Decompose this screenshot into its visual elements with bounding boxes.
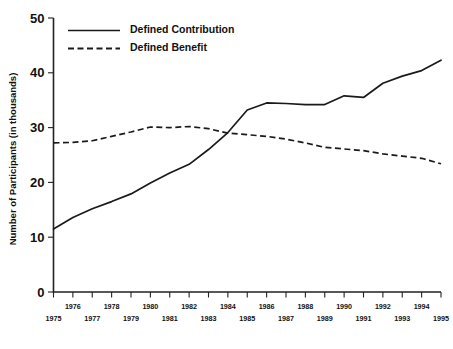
x-tick-label: 1980 bbox=[142, 302, 158, 311]
chart-axes bbox=[54, 18, 442, 292]
x-tick-label: 1993 bbox=[394, 314, 410, 323]
x-tick-label: 1984 bbox=[220, 302, 236, 311]
line-chart-plot: 01020304050 1975197619771978197919801981… bbox=[0, 0, 453, 349]
chart-series bbox=[54, 60, 442, 229]
y-tick-label: 0 bbox=[37, 285, 44, 300]
x-tick-label: 1979 bbox=[123, 314, 139, 323]
x-tick-label: 1990 bbox=[336, 302, 352, 311]
y-tick-label: 40 bbox=[30, 65, 44, 80]
x-tick-label: 1995 bbox=[433, 314, 449, 323]
chart-legend: Defined ContributionDefined Benefit bbox=[68, 23, 234, 53]
y-axis-title: Number of Participants (in thousands) bbox=[7, 73, 18, 246]
x-tick-label: 1983 bbox=[201, 314, 217, 323]
y-axis-ticks: 01020304050 bbox=[30, 11, 53, 300]
x-tick-label: 1994 bbox=[414, 302, 430, 311]
x-tick-label: 1976 bbox=[65, 302, 81, 311]
chart-container: 01020304050 1975197619771978197919801981… bbox=[0, 0, 453, 349]
y-tick-label: 10 bbox=[30, 230, 44, 245]
y-tick-label: 20 bbox=[30, 175, 44, 190]
x-tick-label: 1985 bbox=[239, 314, 255, 323]
legend-label-1: Defined Contribution bbox=[130, 23, 234, 35]
series-line-2 bbox=[54, 127, 442, 164]
y-tick-label: 30 bbox=[30, 120, 44, 135]
x-tick-label: 1982 bbox=[181, 302, 197, 311]
axis-lines bbox=[54, 18, 442, 292]
x-tick-label: 1988 bbox=[297, 302, 313, 311]
x-tick-label: 1987 bbox=[278, 314, 294, 323]
x-tick-label: 1978 bbox=[104, 302, 120, 311]
x-tick-label: 1992 bbox=[375, 302, 391, 311]
x-tick-label: 1975 bbox=[46, 314, 62, 323]
x-tick-label: 1989 bbox=[317, 314, 333, 323]
x-tick-label: 1977 bbox=[84, 314, 100, 323]
y-tick-label: 50 bbox=[30, 11, 44, 26]
x-tick-label: 1981 bbox=[162, 314, 178, 323]
x-tick-label: 1991 bbox=[356, 314, 372, 323]
legend-label-2: Defined Benefit bbox=[130, 41, 208, 53]
x-tick-label: 1986 bbox=[259, 302, 275, 311]
y-axis-title-text: Number of Participants (in thousands) bbox=[7, 73, 18, 246]
series-line-1 bbox=[54, 60, 442, 229]
x-axis-ticks: 1975197619771978197919801981198219831984… bbox=[46, 292, 450, 323]
